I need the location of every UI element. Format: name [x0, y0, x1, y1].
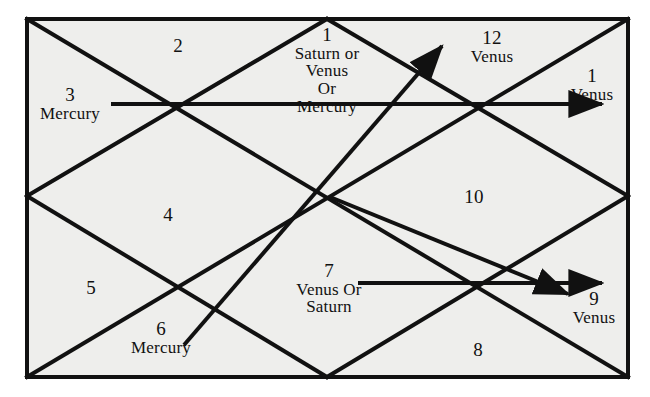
chart-lines-svg — [0, 0, 650, 397]
astrological-chart-figure: 1Saturn orVenusOrMercury23Mercury12Venus… — [0, 0, 650, 397]
